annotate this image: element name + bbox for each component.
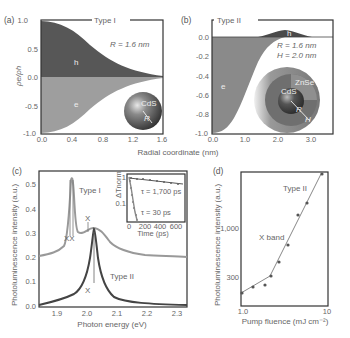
inset-xtick: 0 [127, 222, 131, 231]
x-band-label: X band [259, 233, 284, 242]
panel-c-ylabel: Photoluminescence intensity (a.u.) [10, 183, 19, 306]
ytick: -1.0 [195, 129, 208, 138]
type-i-label: Type I [79, 186, 101, 195]
core-r-label: R [296, 105, 302, 114]
xtick: 1.6 [157, 135, 167, 144]
xtick: 0.4 [67, 135, 77, 144]
panel-b: (b) Type II h e R = 1.6 nm H = 2.0 nm Zn… [181, 15, 333, 144]
pump-fluence-xlabel: Pump fluence (mJ cm⁻²) [242, 317, 329, 326]
panel-a-ylabel: ρe/ρh [14, 65, 23, 87]
xtick: 2.0 [273, 135, 283, 144]
xtick: 3.0 [306, 135, 316, 144]
radius-r-label: R [144, 114, 150, 123]
ytick: 1.0 [18, 16, 28, 25]
ytick: -0.5 [25, 102, 38, 111]
photon-energy-xlabel: Photon energy (eV) [77, 320, 147, 329]
type-ii-label: Type II [110, 272, 134, 281]
panel-b-yaxis: 0.0 -0.2 -0.4 -0.6 -0.8 -1.0 [195, 33, 209, 138]
cds-sphere-inset: CdS R [124, 92, 162, 130]
ytick: 0.5 [26, 180, 36, 189]
inset-ylabel: ΔTnorm [114, 171, 123, 198]
panel-a: (a) Type I R = 1.6 nm h e CdS R 1.0 0.5 … [4, 15, 219, 157]
panel-c-xaxis: 1.9 2.0 2.1 2.2 2.3 Photon energy (eV) [52, 309, 182, 329]
ytick: 0.1 [26, 277, 36, 286]
panel-d-label: (d) [213, 166, 224, 176]
xtick: 1.0 [240, 135, 250, 144]
ytick: -0.6 [196, 91, 209, 100]
panel-d-xaxis: 1.0 10 Pump fluence (mJ cm⁻²) [238, 307, 331, 326]
panel-d-ylabel: Photoluminescence intensity (a.u.) [213, 183, 222, 306]
x-label-top: X [85, 214, 91, 223]
ytick: 0.0 [26, 302, 36, 311]
xtick: 2.1 [112, 309, 122, 318]
ytick: -0.4 [196, 72, 209, 81]
xtick: 1.2 [128, 135, 138, 144]
r-annotation: R = 1.6 nm [277, 41, 317, 50]
figure: (a) Type I R = 1.6 nm h e CdS R 1.0 0.5 … [0, 0, 350, 338]
panel-c-label: (c) [12, 166, 22, 176]
region-h-label: h [74, 58, 78, 67]
xtick: 2.3 [172, 309, 182, 318]
ytick: -1.0 [23, 129, 36, 138]
tau-slow-label: τ = 1,700 ps [141, 187, 182, 196]
region-e-label: e [74, 100, 79, 109]
ytick: 1,000 [220, 224, 239, 233]
shell-h-label: H [305, 115, 311, 124]
xtick: 0.0 [208, 135, 218, 144]
xtick: 0.0 [37, 135, 47, 144]
panel-a-xaxis: 0.0 0.4 0.8 1.2 1.6 [37, 135, 167, 144]
xtick: 2.0 [82, 309, 92, 318]
panel-b-title: Type II [217, 16, 241, 25]
region-e-label: e [221, 82, 226, 91]
radius-annotation: R = 1.6 nm [110, 40, 150, 49]
region-h-label: h [287, 29, 291, 38]
cds-label: CdS [281, 87, 297, 96]
cds-label: CdS [141, 99, 157, 108]
core-shell-inset: ZnSe CdS R H [254, 67, 320, 133]
panel-a-yaxis: 1.0 0.5 0.0 -0.5 -1.0 ρe/ρh [14, 16, 38, 138]
ytick: 0.0 [199, 33, 209, 42]
ytick: 0.4 [26, 205, 36, 214]
ytick: 300 [226, 273, 239, 282]
ytick: 0.0 [28, 73, 38, 82]
panel-c: (c) Type I Type II XX X X [10, 166, 187, 329]
panel-a-title: Type I [94, 16, 116, 25]
inset-xtick: 600 [170, 222, 183, 231]
decay-inset: 1 0.1 ΔTnorm τ = 1,700 ps τ = 30 ps 0 20… [114, 171, 185, 238]
xtick: 1.0 [238, 307, 248, 316]
ytick: 0.5 [28, 45, 38, 54]
panel-b-xaxis: 0.0 1.0 2.0 3.0 [208, 135, 316, 144]
panel-b-label: (b) [181, 15, 192, 25]
ytick: 0.3 [26, 229, 36, 238]
hole-density-area [258, 30, 312, 37]
inset-ytick: 0.1 [116, 199, 126, 208]
xx-label: XX [64, 234, 75, 243]
panel-d-title: Type II [283, 184, 307, 193]
ytick: 0.2 [26, 253, 36, 262]
panel-a-label: (a) [4, 15, 15, 25]
type-ii-spectrum [39, 229, 187, 305]
xtick: 10 [323, 307, 331, 316]
radial-coordinate-xlabel: Radial coordinate (nm) [138, 148, 219, 157]
ytick: -0.2 [196, 52, 209, 61]
panel-d: (d) Type II X band 1,000 300 Photolumine… [213, 166, 331, 326]
x-label-bottom: X [85, 286, 91, 295]
panel-c-yaxis: 0.5 0.4 0.3 0.2 0.1 0.0 Photoluminescenc… [10, 180, 36, 311]
znse-label: ZnSe [295, 78, 315, 87]
tau-fast-label: τ = 30 ps [141, 208, 171, 217]
hole-density-area [41, 21, 163, 77]
h-annotation: H = 2.0 nm [277, 51, 317, 60]
panel-d-yaxis: 1,000 300 Photoluminescence intensity (a… [213, 183, 239, 306]
xtick: 2.2 [142, 309, 152, 318]
xtick: 0.8 [98, 135, 108, 144]
inset-xlabel: Time (ps) [137, 229, 169, 238]
ytick: -0.8 [196, 110, 209, 119]
xtick: 1.9 [52, 309, 62, 318]
